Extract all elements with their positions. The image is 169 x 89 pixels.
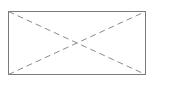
image-placeholder <box>0 0 169 89</box>
